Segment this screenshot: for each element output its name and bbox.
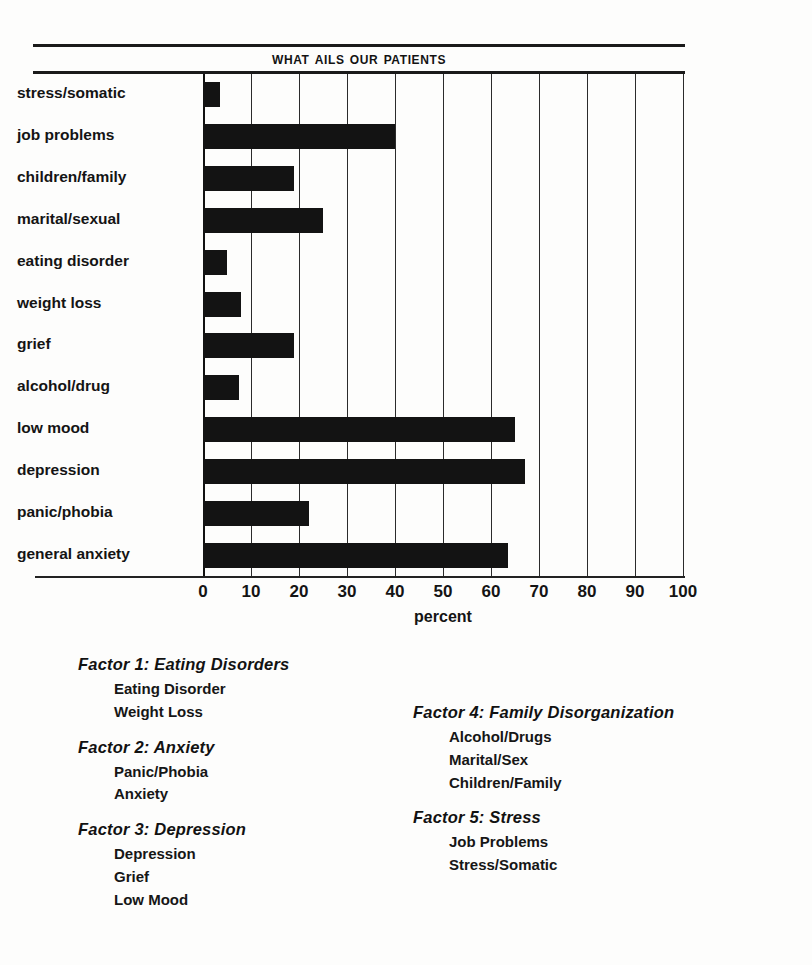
bar-marital-sexual [203, 208, 323, 233]
bar-row [203, 166, 683, 191]
factor-title: Factor 5: Stress [413, 808, 773, 827]
factor-title: Factor 3: Depression [78, 820, 408, 839]
category-label: panic/phobia [17, 503, 197, 521]
factor-item: Alcohol/Drugs [449, 726, 773, 749]
factor-block: Factor 1: Eating DisordersEating Disorde… [78, 655, 408, 724]
factor-item: Anxiety [114, 783, 408, 806]
factor-block: Factor 2: AnxietyPanic/PhobiaAnxiety [78, 738, 408, 807]
bar-depression [203, 459, 525, 484]
factor-title: Factor 4: Family Disorganization [413, 703, 773, 722]
category-label: low mood [17, 419, 197, 437]
plot-area: stress/somaticjob problemschildren/famil… [203, 74, 683, 576]
bar-alcohol-drug [203, 375, 239, 400]
legend-column-right: Factor 4: Family DisorganizationAlcohol/… [413, 703, 773, 891]
category-label: job problems [17, 126, 197, 144]
x-tick-10: 10 [228, 582, 274, 602]
factor-item: Marital/Sex [449, 749, 773, 772]
x-axis-line [35, 576, 685, 578]
bar-row [203, 501, 683, 526]
legend-column-left: Factor 1: Eating DisordersEating Disorde… [78, 655, 408, 926]
x-tick-0: 0 [180, 582, 226, 602]
x-tick-50: 50 [420, 582, 466, 602]
category-label: marital/sexual [17, 210, 197, 228]
factor-item: Panic/Phobia [114, 761, 408, 784]
category-label: alcohol/drug [17, 377, 197, 395]
bar-row [203, 459, 683, 484]
x-tick-40: 40 [372, 582, 418, 602]
factor-legend: Factor 1: Eating DisordersEating Disorde… [0, 655, 812, 955]
bar-children-family [203, 166, 294, 191]
x-tick-100: 100 [660, 582, 706, 602]
bar-row [203, 208, 683, 233]
factor-item: Depression [114, 843, 408, 866]
bar-panic-phobia [203, 501, 309, 526]
x-tick-80: 80 [564, 582, 610, 602]
bar-eating-disorder [203, 250, 227, 275]
x-tick-30: 30 [324, 582, 370, 602]
factor-item: Children/Family [449, 772, 773, 795]
document-page: What Ails Our Patients stress/somaticjob… [0, 0, 812, 965]
factor-item: Eating Disorder [114, 678, 408, 701]
factor-title: Factor 1: Eating Disorders [78, 655, 408, 674]
bar-row [203, 124, 683, 149]
gridline-100 [683, 74, 684, 576]
bar-row [203, 333, 683, 358]
factor-title: Factor 2: Anxiety [78, 738, 408, 757]
category-label: children/family [17, 168, 197, 186]
x-tick-90: 90 [612, 582, 658, 602]
bar-grief [203, 333, 294, 358]
factor-block: Factor 5: StressJob ProblemsStress/Somat… [413, 808, 773, 877]
factor-item: Job Problems [449, 831, 773, 854]
category-label: weight loss [17, 294, 197, 312]
category-label: stress/somatic [17, 84, 197, 102]
bar-job-problems [203, 124, 395, 149]
category-label: eating disorder [17, 252, 197, 270]
x-tick-60: 60 [468, 582, 514, 602]
chart-title: What Ails Our Patients [33, 47, 685, 71]
bar-row [203, 250, 683, 275]
category-label: depression [17, 461, 197, 479]
bar-row [203, 417, 683, 442]
factor-item: Grief [114, 866, 408, 889]
bar-row [203, 375, 683, 400]
category-label: general anxiety [17, 545, 197, 563]
bar-stress-somatic [203, 82, 220, 107]
factor-item: Stress/Somatic [449, 854, 773, 877]
bar-general-anxiety [203, 543, 508, 568]
x-tick-20: 20 [276, 582, 322, 602]
factor-item: Low Mood [114, 889, 408, 912]
bar-low-mood [203, 417, 515, 442]
bar-weight-loss [203, 292, 241, 317]
bar-row [203, 292, 683, 317]
factor-block: Factor 4: Family DisorganizationAlcohol/… [413, 703, 773, 794]
bar-chart-figure: What Ails Our Patients stress/somaticjob… [33, 44, 685, 579]
category-label: grief [17, 335, 197, 353]
x-tick-70: 70 [516, 582, 562, 602]
factor-block: Factor 3: DepressionDepressionGriefLow M… [78, 820, 408, 911]
bar-row [203, 543, 683, 568]
x-axis-title: percent [203, 608, 683, 626]
factor-item: Weight Loss [114, 701, 408, 724]
bar-row [203, 82, 683, 107]
